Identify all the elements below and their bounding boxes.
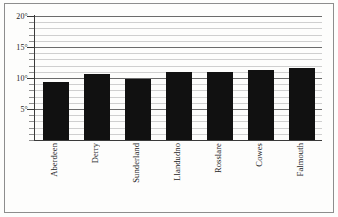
bar [125, 79, 151, 140]
plot-area [35, 16, 322, 140]
bar [166, 72, 192, 140]
bar [289, 68, 315, 140]
x-axis-category-labels: AberdeenDerrySunderlandLlandudnoRosslare… [35, 143, 322, 213]
y-axis-tick-labels: 5°10°15°20° [0, 0, 28, 217]
x-axis-label: Rosslare [213, 143, 227, 173]
bar-series [35, 16, 322, 140]
bar [84, 74, 110, 140]
x-axis-label: Derry [90, 143, 104, 163]
bar [248, 70, 274, 140]
axis-baseline [35, 140, 322, 141]
y-axis-label: 10° [0, 74, 28, 83]
x-axis-label: Falmouth [295, 143, 309, 176]
bar [43, 82, 69, 140]
x-axis-label: Aberdeen [49, 143, 63, 177]
bar-chart-figure: 5°10°15°20° AberdeenDerrySunderlandLland… [0, 0, 338, 217]
y-axis-label: 15° [0, 43, 28, 52]
x-axis-label: Llandudno [172, 143, 186, 181]
y-axis-label: 5° [0, 105, 28, 114]
x-axis-label: Sunderland [131, 143, 145, 183]
y-axis-label: 20° [0, 12, 28, 21]
bar [207, 72, 233, 140]
x-axis-label: Cowes [254, 143, 268, 167]
